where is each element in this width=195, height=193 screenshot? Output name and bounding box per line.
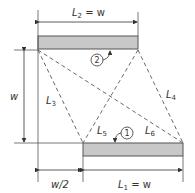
surface-1-pointer bbox=[115, 133, 121, 142]
label-L1: L1 = w bbox=[118, 179, 151, 192]
surface-1-label: 1 bbox=[124, 129, 129, 138]
view-factor-diagram: 2 1 L2 = w L1 = w w w/2 L3 L4 L5 L6 bbox=[0, 0, 195, 193]
line-L6 bbox=[38, 50, 183, 143]
surface-2-pointer bbox=[103, 51, 110, 60]
label-w-vertical: w bbox=[10, 91, 19, 102]
line-L3 bbox=[38, 50, 83, 143]
label-L3: L3 bbox=[46, 95, 56, 108]
surface-2-label: 2 bbox=[94, 56, 99, 65]
label-L5: L5 bbox=[97, 125, 107, 138]
label-w-half: w/2 bbox=[51, 179, 69, 190]
label-L4: L4 bbox=[166, 89, 177, 102]
surface-1 bbox=[83, 143, 183, 156]
label-L2: L2 = w bbox=[72, 7, 105, 20]
surface-2 bbox=[38, 36, 138, 49]
label-L6: L6 bbox=[145, 125, 156, 138]
